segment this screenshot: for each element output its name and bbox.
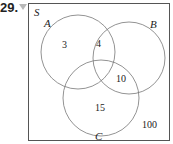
- circle-a: [41, 15, 115, 89]
- set-label-b: B: [150, 18, 157, 30]
- set-label-a: A: [43, 17, 51, 29]
- region-a-only: 3: [62, 39, 67, 50]
- circle-b: [93, 22, 165, 94]
- region-c-only: 15: [95, 102, 105, 113]
- venn-diagram: S A B C 3 4 10 15 100: [0, 0, 173, 144]
- region-a-and-b: 4: [96, 38, 101, 49]
- universe-label: S: [34, 6, 40, 18]
- circle-c: [63, 60, 139, 136]
- region-outside: 100: [142, 119, 157, 130]
- set-label-c: C: [95, 130, 103, 142]
- region-b-and-c: 10: [116, 73, 126, 84]
